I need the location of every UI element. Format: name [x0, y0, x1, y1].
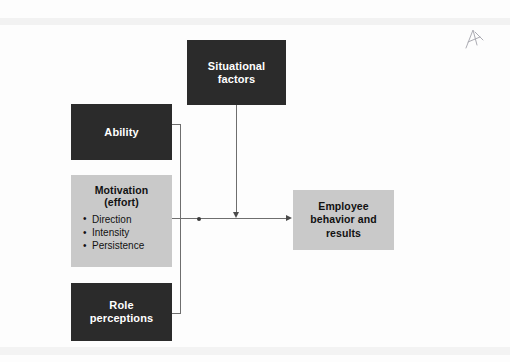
handwritten-pen-mark	[462, 26, 486, 52]
scan-band-bottom	[0, 347, 510, 355]
node-ability[interactable]: Ability	[71, 104, 172, 160]
list-item: Intensity	[83, 226, 144, 239]
node-employee-behavior-results-label: Employee behavior and results	[310, 200, 377, 239]
node-situational-factors-label: Situational factors	[208, 60, 265, 86]
motivation-bullet-list: Direction Intensity Persistence	[71, 213, 144, 253]
connector-ability-stub	[171, 124, 181, 125]
node-role-perceptions-label: Role perceptions	[90, 299, 153, 325]
connector-role-stub	[171, 313, 181, 314]
connector-main-horizontal	[168, 218, 290, 219]
diagram-page: Situational factors Ability Motivation (…	[0, 0, 510, 362]
node-ability-label: Ability	[104, 126, 138, 139]
list-item: Persistence	[83, 239, 144, 252]
scan-band-top	[0, 18, 510, 25]
node-motivation[interactable]: Motivation (effort) Direction Intensity …	[71, 175, 172, 267]
connector-junction-dot	[197, 217, 201, 221]
node-motivation-label: Motivation (effort)	[95, 184, 149, 209]
node-role-perceptions[interactable]: Role perceptions	[71, 283, 172, 341]
node-employee-behavior-results[interactable]: Employee behavior and results	[293, 190, 394, 250]
arrowhead-to-employee	[286, 215, 292, 221]
node-situational-factors[interactable]: Situational factors	[187, 40, 286, 105]
arrowhead-from-situational	[233, 212, 239, 218]
connector-left-bus	[180, 124, 181, 314]
connector-situational-vertical	[236, 105, 237, 213]
list-item: Direction	[83, 213, 144, 226]
